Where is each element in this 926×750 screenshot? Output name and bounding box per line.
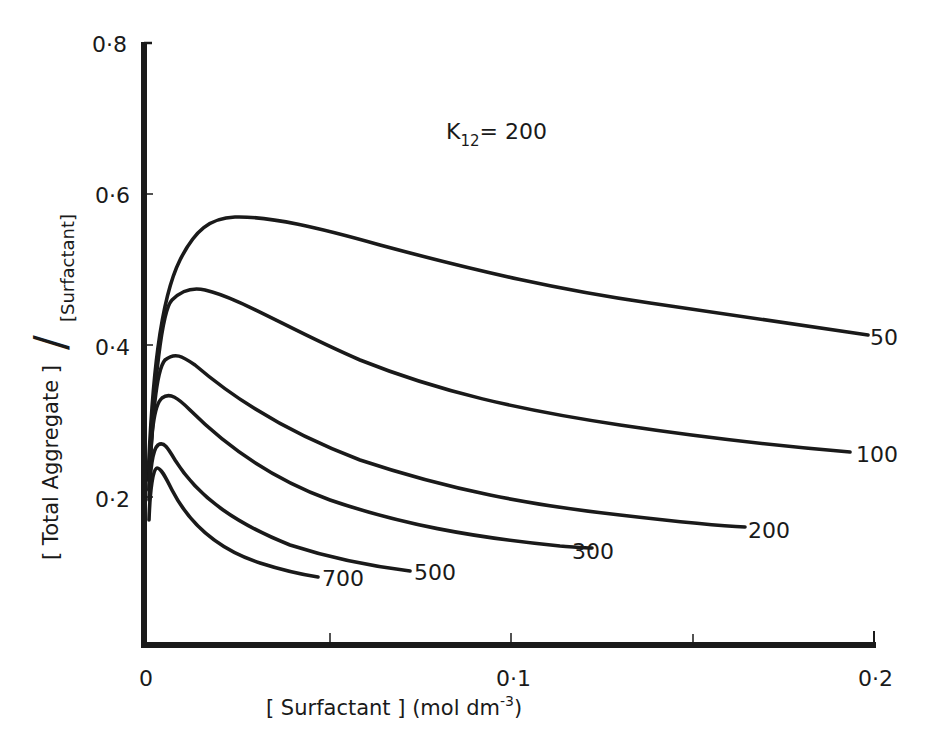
x-axis-title: [ Surfactant ] (mol dm-3) (266, 693, 522, 720)
y-tick-label: 0·8 (92, 32, 127, 57)
y-tick-label: 0·2 (95, 487, 130, 512)
curve-200 (149, 356, 745, 527)
chart: 0·8 0·6 0·4 0·2 0 0·1 0·2 [ Surfactant ]… (0, 0, 926, 750)
svg-text:[Surfactant]: [Surfactant] (57, 214, 78, 322)
x-tick-label: 0·1 (496, 666, 531, 691)
k12-annotation: K12= 200 (446, 119, 547, 150)
svg-text:[ Total Aggregate ]: [ Total Aggregate ] (39, 365, 63, 560)
x-tick-label: 0·2 (858, 666, 893, 691)
curve-300 (149, 396, 592, 548)
curve-label-500: 500 (414, 560, 456, 585)
curve-label-50: 50 (870, 325, 898, 350)
curve-label-300: 300 (572, 539, 614, 564)
x-axis (141, 631, 876, 645)
y-axis (144, 42, 153, 648)
svg-text:/: / (25, 335, 76, 350)
curve-label-700: 700 (322, 566, 364, 591)
curve-50 (148, 217, 868, 480)
curve-label-200: 200 (748, 518, 790, 543)
y-tick-label: 0·6 (95, 183, 130, 208)
y-tick-label: 0·4 (95, 335, 130, 360)
x-tick-label: 0 (139, 666, 153, 691)
y-axis-title: [ Total Aggregate ] / [Surfactant] (25, 214, 78, 560)
curve-label-100: 100 (856, 442, 898, 467)
